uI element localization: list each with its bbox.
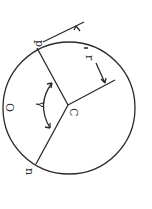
label-radius: r (83, 55, 96, 61)
circle-diagram: p n C O γ r (0, 0, 152, 209)
label-p: p (33, 40, 46, 47)
radius-cp (37, 48, 68, 105)
radius-r (68, 80, 115, 105)
radius-cn (36, 105, 68, 164)
tangent-line (43, 22, 84, 42)
tangent-arrow (74, 26, 80, 31)
radius-dimension-arrow (84, 48, 106, 83)
label-angle: γ (35, 101, 48, 108)
label-circle: O (3, 103, 16, 112)
label-n: n (23, 168, 36, 175)
label-center: C (67, 108, 80, 116)
